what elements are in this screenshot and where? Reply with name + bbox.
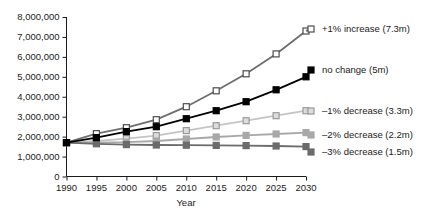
legend-marker [308, 108, 314, 114]
x-tick-label: 2000 [116, 182, 137, 193]
series-marker [243, 71, 249, 77]
series-marker [183, 142, 189, 148]
axis-group [67, 17, 307, 177]
series-marker [183, 136, 189, 142]
x-tick-label: 2020 [236, 182, 257, 193]
y-tick-label: 7,000,000 [17, 31, 59, 42]
series-marker [213, 88, 219, 94]
y-tick-label: 2,000,000 [17, 131, 59, 142]
legend-label: –2% decrease (2.2m) [322, 129, 413, 140]
series-marker [153, 142, 159, 148]
series-marker [213, 123, 219, 129]
y-tick-label: 5,000,000 [17, 71, 59, 82]
series-marker [183, 128, 189, 134]
series-layer [64, 28, 310, 150]
x-tick-label: 2010 [176, 182, 197, 193]
series-marker [213, 134, 219, 140]
series-marker [243, 99, 249, 105]
series-marker [273, 113, 279, 119]
y-tick-label: 1,000,000 [17, 151, 59, 162]
series-marker [123, 129, 129, 135]
series-marker [183, 104, 189, 110]
series-marker [153, 117, 159, 123]
x-tick-label: 2015 [206, 182, 227, 193]
series-marker [64, 140, 70, 146]
series-marker [213, 142, 219, 148]
legend-label: –1% decrease (3.3m) [322, 105, 413, 116]
y-tick-label: 0 [54, 171, 59, 182]
x-tick-label: 1995 [86, 182, 107, 193]
x-axis-ticks: 199019952000200520102015202020252030 [56, 177, 317, 194]
series-marker [243, 143, 249, 149]
y-axis-ticks: 01,000,0002,000,0003,000,0004,000,0005,0… [17, 11, 66, 182]
x-tick-label: 2030 [295, 182, 316, 193]
legend-marker [308, 132, 314, 138]
series-marker [273, 143, 279, 149]
series-marker [153, 124, 159, 130]
series-marker [273, 51, 279, 57]
y-tick-label: 8,000,000 [17, 11, 59, 22]
x-tick-label: 1990 [56, 182, 77, 193]
chart-legend: +1% increase (7.3m)no change (5m)–1% dec… [306, 23, 413, 157]
x-tick-label: 2025 [265, 182, 286, 193]
legend-marker [308, 149, 314, 155]
series-line [67, 31, 307, 143]
legend-label: no change (5m) [322, 64, 389, 75]
population-projection-line-chart: 01,000,0002,000,0003,000,0004,000,0005,0… [0, 0, 434, 220]
x-axis-title: Year [176, 197, 195, 208]
series-marker [273, 87, 279, 93]
y-tick-label: 3,000,000 [17, 111, 59, 122]
legend-marker [308, 67, 314, 73]
y-tick-label: 6,000,000 [17, 51, 59, 62]
series-marker [183, 116, 189, 122]
legend-label: +1% increase (7.3m) [322, 23, 410, 34]
chart-container: 01,000,0002,000,0003,000,0004,000,0005,0… [0, 0, 434, 220]
series-marker [243, 118, 249, 124]
series-marker [93, 135, 99, 141]
y-tick-label: 4,000,000 [17, 91, 59, 102]
series-marker [93, 141, 99, 147]
series-marker [213, 108, 219, 114]
legend-marker [308, 26, 314, 32]
series-marker [273, 131, 279, 137]
legend-label: –3% decrease (1.5m) [322, 146, 413, 157]
series-marker [243, 132, 249, 138]
x-tick-label: 2005 [146, 182, 167, 193]
series-marker [123, 142, 129, 148]
